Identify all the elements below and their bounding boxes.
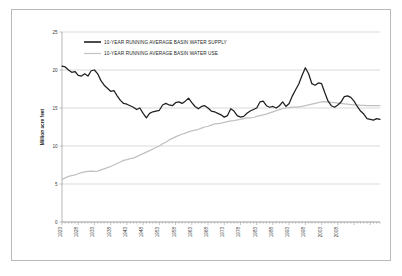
x-tick-label-1973: 1973	[220, 227, 225, 238]
y-tick-label-20: 20	[52, 68, 58, 73]
y-axis	[60, 32, 63, 222]
x-axis	[62, 222, 380, 225]
legend-label-1: 10-YEAR RUNNING AVERAGE BASIN WATER USE	[104, 51, 218, 56]
x-tick-label-2003: 2003	[318, 227, 323, 238]
chart-page: 0510152025 19231928193319381943194819531…	[0, 0, 402, 276]
x-tick-label-1978: 1978	[236, 227, 241, 238]
x-tick-label-1928: 1928	[74, 227, 79, 238]
x-tick-label-1938: 1938	[107, 227, 112, 238]
x-tick-label-1933: 1933	[90, 227, 95, 238]
figure-frame: 0510152025 19231928193319381943194819531…	[11, 9, 391, 261]
water-supply-use-line-chart: 0510152025 19231928193319381943194819531…	[12, 10, 392, 262]
plot-background	[62, 32, 380, 222]
x-tick-label-1998: 1998	[301, 227, 306, 238]
x-axis-tick-labels: 1923192819331938194319481953195819631968…	[58, 227, 339, 238]
x-tick-label-1993: 1993	[285, 227, 290, 238]
x-tick-label-1963: 1963	[188, 227, 193, 238]
y-tick-label-5: 5	[55, 182, 58, 187]
y-tick-label-10: 10	[52, 144, 58, 149]
x-tick-label-2008: 2008	[334, 227, 339, 238]
y-axis-tick-labels: 0510152025	[52, 30, 58, 225]
chart-plot-stage: 0510152025 19231928193319381943194819531…	[12, 10, 392, 262]
y-tick-label-25: 25	[52, 30, 58, 35]
x-tick-label-1953: 1953	[155, 227, 160, 238]
x-tick-label-1958: 1958	[172, 227, 177, 238]
x-tick-label-1988: 1988	[269, 227, 274, 238]
x-tick-label-1983: 1983	[253, 227, 258, 238]
x-tick-label-1948: 1948	[139, 227, 144, 238]
legend-label-0: 10-YEAR RUNNING AVERAGE BASIN WATER SUPP…	[104, 40, 228, 45]
y-tick-label-0: 0	[55, 220, 58, 225]
x-tick-label-1968: 1968	[204, 227, 209, 238]
x-tick-label-1923: 1923	[58, 227, 63, 238]
x-tick-label-1943: 1943	[123, 227, 128, 238]
y-axis-title: Million acre feet	[40, 108, 45, 145]
y-tick-label-15: 15	[52, 106, 58, 111]
